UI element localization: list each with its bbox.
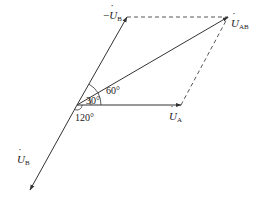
- label-main: U: [17, 154, 25, 165]
- label-u-ab: UAB: [231, 18, 249, 31]
- label-sub: AB: [239, 23, 249, 31]
- label-main: U: [109, 10, 117, 21]
- label-main-text: U: [109, 9, 117, 21]
- label-main: U: [169, 111, 177, 122]
- label-main-text: U: [169, 110, 177, 122]
- label-neg-u-b: −UB: [103, 10, 122, 23]
- label-u-a: UA: [169, 111, 182, 124]
- phasor-diagram-svg: [0, 0, 263, 197]
- angle-label-60: 60°: [106, 86, 120, 96]
- angle-label-120: 120°: [75, 113, 94, 123]
- label-main: U: [231, 18, 239, 29]
- vector-u-b: [30, 105, 77, 190]
- label-main-text: U: [231, 17, 239, 29]
- label-sub: A: [177, 116, 182, 124]
- label-sub: B: [25, 159, 30, 167]
- phasor-diagram: −UB UAB UA UB 60° 30° 120°: [0, 0, 263, 197]
- vector-u-ab: [77, 17, 228, 105]
- label-main-text: U: [17, 153, 25, 165]
- angle-label-30: 30°: [86, 96, 100, 106]
- label-u-b: UB: [17, 154, 30, 167]
- label-sub: B: [117, 15, 122, 23]
